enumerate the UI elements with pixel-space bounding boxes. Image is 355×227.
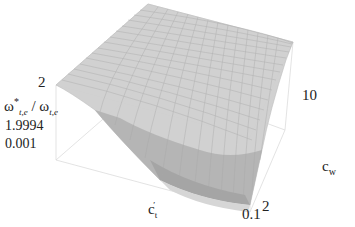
- x-tick-end: 0.1: [242, 206, 261, 223]
- y-tick-front: 2: [262, 198, 270, 215]
- z-axis-divider: / ω: [28, 98, 50, 114]
- y-axis-label: cw: [322, 158, 336, 177]
- x-axis-prime: ′: [153, 200, 155, 210]
- y-tick-back: 10: [302, 87, 317, 104]
- z-tick-low: 0.001: [5, 136, 37, 152]
- z-tick-mid: 1.9994: [5, 118, 44, 134]
- z-axis-label: ω*t,e / ωt,e: [4, 96, 58, 117]
- surface: [56, 4, 293, 212]
- z-axis-sub2: t,e: [49, 107, 58, 117]
- y-axis-sub: w: [329, 166, 336, 177]
- z-axis-star: *: [14, 96, 19, 107]
- x-axis-label: ct′: [148, 200, 155, 220]
- y-axis-c: c: [322, 158, 329, 174]
- z-tick-top: 2: [38, 74, 46, 91]
- z-axis-omega: ω: [4, 98, 14, 114]
- x-axis-sub: t: [155, 210, 158, 220]
- z-axis-sub: t,e: [19, 107, 28, 117]
